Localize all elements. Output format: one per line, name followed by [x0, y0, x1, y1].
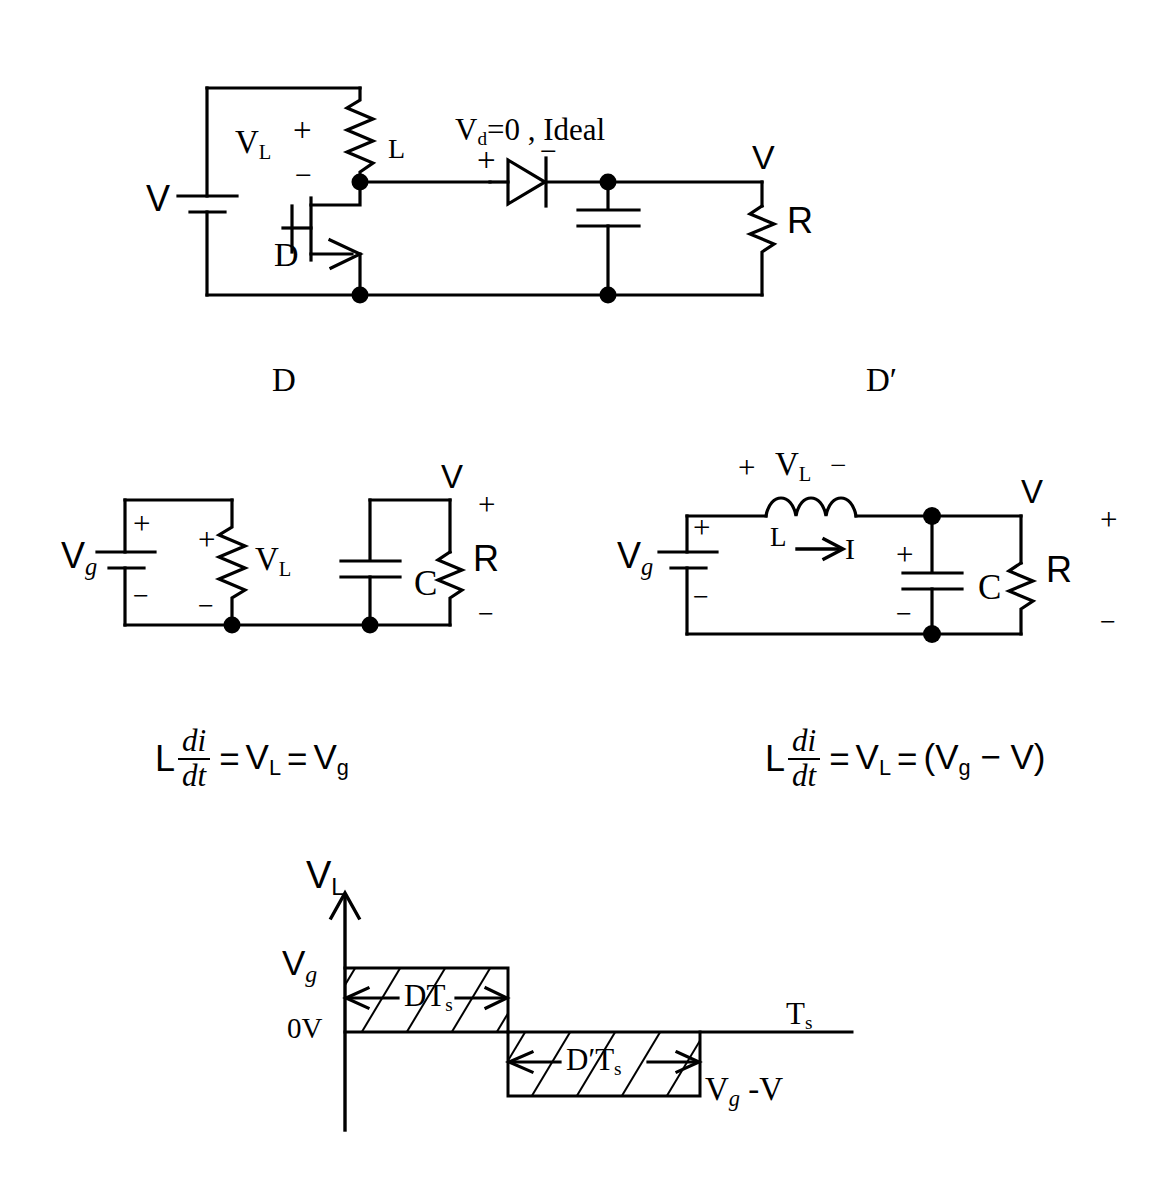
eq-r-rhs-minus: − V) — [971, 737, 1046, 776]
wf-x-sub: s — [805, 1012, 812, 1033]
eq-r-lead: L — [765, 741, 785, 777]
R-source-battery — [659, 552, 717, 568]
circuit-diagram-page: V + − VL L D Vd=0 , Ideal + − V R D D′ V… — [0, 0, 1167, 1202]
top-resistor-label: R — [787, 203, 813, 239]
source-battery-top — [178, 196, 237, 212]
right-vl-minus: − — [830, 451, 846, 480]
eq-r-vl-sub: L — [879, 755, 891, 780]
left-inductor-minus: − — [198, 592, 214, 620]
eq-r-equals2: = — [897, 741, 917, 776]
node-dot-d — [600, 287, 617, 304]
eq-r-rhs: (Vg − V) — [923, 739, 1045, 779]
right-vl-plus: + — [738, 452, 755, 483]
right-cap-minus: − — [896, 600, 912, 628]
top-source-label: V — [146, 181, 170, 217]
right-output-label: V — [1021, 475, 1043, 508]
right-vl-label: VL — [775, 448, 811, 484]
L-source-battery — [97, 552, 155, 568]
waveform-dts-label: DTs — [404, 980, 453, 1015]
left-inductor-plus: + — [198, 524, 215, 555]
eq-r-rhs-sub: g — [958, 755, 970, 780]
L-node-dot-b — [362, 617, 379, 634]
L-inductor-zigzag — [219, 500, 245, 625]
waveform-tick-vg: Vg — [282, 945, 317, 986]
right-current-label: I — [845, 534, 855, 564]
node-dot-b — [352, 287, 369, 304]
left-output-label: V — [441, 460, 463, 493]
right-inductor-name: L — [770, 524, 787, 551]
diode-minus: − — [540, 136, 557, 166]
waveform-y-axis-label: VL — [306, 856, 344, 899]
diode-plus: + — [477, 144, 496, 177]
wf-tick-vg-sub: g — [305, 961, 317, 987]
eq-r-frac: di dt — [788, 725, 820, 792]
eq-r-vl-v: V — [856, 737, 879, 776]
eq-l-num: di — [178, 725, 210, 760]
wf-off-rest: -V — [740, 1071, 783, 1107]
eq-r-den: dt — [788, 760, 820, 793]
waveform-x-axis-label: Ts — [786, 998, 812, 1033]
rvg-sub: g — [641, 553, 653, 580]
right-source-plus: + — [693, 512, 710, 543]
vd-v: V — [455, 112, 477, 147]
eq-r-vl: VL — [856, 739, 891, 779]
top-switch-label: D — [274, 238, 299, 272]
state-label-on: D — [272, 364, 296, 397]
wf-off-sub: g — [729, 1086, 740, 1111]
eq-l-rhs: Vg — [313, 739, 348, 779]
rvl-v: V — [775, 446, 799, 482]
top-inductor-voltage-label: VL — [235, 126, 271, 162]
L-resistor-zigzag — [438, 552, 462, 625]
right-cap-plus: + — [896, 539, 913, 570]
right-cap-label: C — [978, 570, 1001, 605]
left-output-plus: + — [478, 489, 495, 520]
rvg-v: V — [617, 535, 641, 576]
left-inductor-voltage-label: VL — [255, 543, 291, 579]
equation-on-state: L di dt = VL = Vg — [155, 725, 349, 792]
top-inductor-minus: − — [295, 160, 312, 190]
top-inductor-plus: + — [293, 114, 312, 147]
waveform-off-level-label: Vg -V — [705, 1073, 783, 1111]
vg-v: V — [61, 535, 85, 576]
right-source-minus: − — [693, 583, 709, 611]
vl-sub: L — [259, 141, 271, 163]
eq-l-den: dt — [178, 760, 210, 793]
eq-l-rhs-sub: g — [337, 755, 349, 780]
left-source-minus: − — [133, 582, 149, 610]
wf-x-t: T — [786, 996, 805, 1031]
right-source-label: Vg — [617, 538, 653, 579]
vl-v: V — [235, 124, 259, 160]
state-label-off: D′ — [866, 364, 897, 397]
equation-off-state: L di dt = VL = (Vg − V) — [765, 725, 1045, 792]
eq-l-lead: L — [155, 741, 175, 777]
eq-l-frac: di dt — [178, 725, 210, 792]
wf-tick-vg-v: V — [282, 943, 305, 982]
top-output-label: V — [752, 140, 775, 174]
lvl-sub: L — [279, 558, 291, 580]
top-inductor-name: L — [388, 135, 405, 163]
R-resistor-zigzag — [1009, 563, 1033, 634]
eq-l-vl-sub: L — [269, 755, 281, 780]
left-output-minus: − — [478, 600, 494, 628]
eq-r-equals1: = — [829, 741, 849, 776]
lvl-v: V — [255, 541, 279, 577]
wf-y-v: V — [306, 854, 331, 896]
vg-sub: g — [85, 553, 97, 580]
eq-l-vl-v: V — [246, 737, 269, 776]
left-cap-label: C — [414, 566, 437, 601]
eq-l-vl: VL — [246, 739, 281, 779]
wf-off-v: V — [705, 1071, 729, 1107]
wf-dpts-sub: s — [614, 1058, 621, 1079]
waveform-dpts-label: D′Ts — [566, 1044, 622, 1079]
node-dot-c — [600, 174, 617, 191]
wf-dts-main: DT — [404, 978, 445, 1013]
waveform-tick-zero: 0V — [287, 1014, 322, 1043]
rvl-sub: L — [799, 463, 811, 485]
R-node-dot-a — [923, 507, 941, 525]
right-res-label: R — [1046, 552, 1072, 588]
eq-r-num: di — [788, 725, 820, 760]
L-node-dot-a — [224, 617, 241, 634]
R-node-dot-b — [923, 625, 941, 643]
R-inductor-coil — [766, 498, 856, 516]
eq-l-equals1: = — [219, 741, 239, 776]
